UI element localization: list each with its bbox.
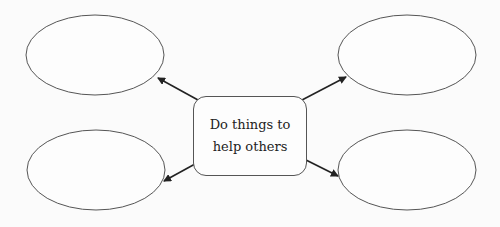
arrow-bottom-left — [164, 164, 195, 181]
arrow-bottom-right — [306, 160, 338, 176]
center-text-line-1: Do things to — [210, 114, 291, 136]
ellipse-bottom-right — [338, 130, 476, 210]
ellipse-bottom-left — [27, 130, 165, 210]
ellipse-top-right — [338, 15, 476, 95]
center-text-line-2: help others — [213, 136, 288, 158]
arrow-top-right — [302, 77, 346, 100]
center-node: Do things to help others — [193, 96, 307, 176]
ellipse-top-left — [26, 15, 164, 95]
arrow-top-left — [158, 78, 198, 100]
